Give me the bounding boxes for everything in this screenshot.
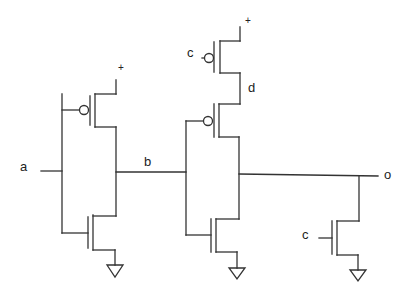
node-b-wire bbox=[116, 127, 186, 216]
nmos-c bbox=[319, 176, 366, 281]
label-output-o: o bbox=[384, 168, 391, 181]
pmos-1-bubble-icon bbox=[80, 106, 89, 115]
ground-icon bbox=[107, 265, 123, 277]
ground-icon bbox=[229, 268, 245, 279]
ground-icon bbox=[350, 270, 366, 281]
label-gate-c-top: c bbox=[187, 46, 194, 59]
nmos-1 bbox=[62, 215, 123, 277]
schematic-wires bbox=[0, 0, 413, 299]
pmos-1 bbox=[80, 80, 117, 127]
label-gate-c-bottom: c bbox=[302, 228, 309, 241]
label-input-a: a bbox=[20, 160, 27, 173]
nmos-2 bbox=[186, 219, 245, 279]
label-node-b: b bbox=[144, 155, 151, 168]
pmos-2-bubble-icon bbox=[204, 117, 213, 126]
pmos-2 bbox=[186, 104, 240, 137]
label-node-d: d bbox=[248, 81, 255, 94]
pmos-c bbox=[202, 27, 240, 73]
pmos-c-bubble-icon bbox=[205, 54, 214, 63]
vdd-plus-icon: + bbox=[118, 63, 124, 73]
circuit-diagram: a b d o c c + + bbox=[0, 0, 413, 299]
vdd-plus-icon: + bbox=[245, 16, 251, 26]
output-o-wire bbox=[239, 137, 378, 219]
input-a-wire bbox=[41, 94, 80, 233]
